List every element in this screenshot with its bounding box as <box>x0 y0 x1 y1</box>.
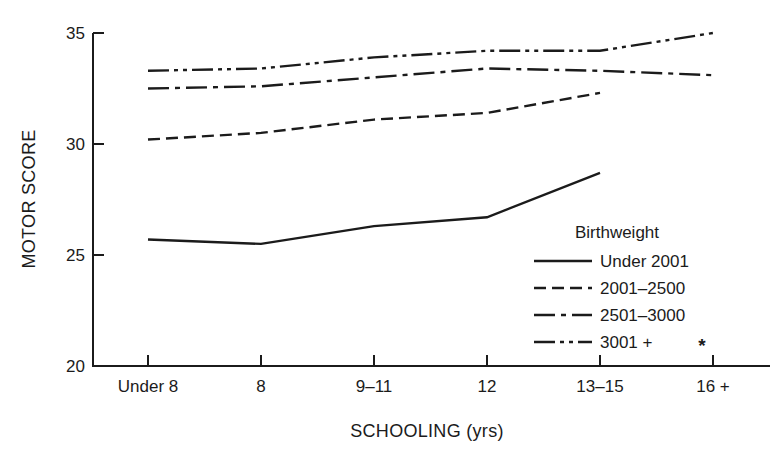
y-axis-title: MOTOR SCORE <box>19 130 39 269</box>
legend-label-under-2001: Under 2001 <box>600 252 689 271</box>
x-axis-title: SCHOOLING (yrs) <box>350 421 504 441</box>
x-tick-label: 13–15 <box>576 377 623 396</box>
x-tick-label: 8 <box>256 377 265 396</box>
legend: Birthweight Under 20012001–25002501–3000… <box>534 223 689 352</box>
y-tick-label: 25 <box>66 246 85 265</box>
series-line-under-2001 <box>148 173 600 244</box>
chart-figure: 20253035 Under 889–111213–1516 + MOTOR S… <box>0 0 776 458</box>
legend-rows: Under 20012001–25002501–30003001 + <box>534 252 689 352</box>
legend-title: Birthweight <box>575 223 659 242</box>
chart-canvas: 20253035 Under 889–111213–1516 + MOTOR S… <box>0 0 776 458</box>
x-tick-label: 16 + <box>696 377 730 396</box>
y-tick-label: 30 <box>66 135 85 154</box>
series-line-2501-3000 <box>148 69 713 89</box>
y-tick-label: 20 <box>66 357 85 376</box>
x-tick-label: 9–11 <box>356 377 393 396</box>
x-axis-tick-labels: Under 889–111213–1516 + <box>118 377 730 396</box>
x-tick-label: Under 8 <box>118 377 178 396</box>
legend-label-2001-2500: 2001–2500 <box>600 279 685 298</box>
series-line-3001 <box>148 33 713 71</box>
footnote-asterisk: * <box>698 335 706 356</box>
series-line-2001-2500 <box>148 93 600 140</box>
series-lines <box>148 33 713 244</box>
legend-label-3001: 3001 + <box>600 333 653 352</box>
legend-label-2501-3000: 2501–3000 <box>600 306 685 325</box>
y-tick-label: 35 <box>66 24 85 43</box>
x-tick-label: 12 <box>478 377 497 396</box>
y-axis-tick-labels: 20253035 <box>66 24 85 376</box>
annotations: * <box>698 335 706 356</box>
